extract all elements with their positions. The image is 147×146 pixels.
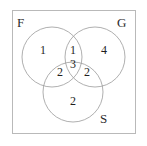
region-count-g-only: 4: [101, 44, 107, 56]
set-label-g: G: [117, 16, 126, 29]
set-label-s: S: [100, 112, 107, 125]
set-label-f: F: [17, 16, 24, 29]
region-count-s-only: 2: [70, 95, 76, 107]
region-count-f-and-s-only: 2: [57, 66, 63, 78]
region-count-g-and-s-only: 2: [84, 66, 90, 78]
circle-set-s: [43, 62, 103, 122]
region-count-f-and-g-only: 1: [70, 44, 76, 56]
region-count-f-and-g-and-s: 3: [70, 58, 76, 70]
region-count-f-only: 1: [40, 44, 46, 56]
venn-diagram-figure: F G S 1 4 2 1 2 2 3: [0, 0, 147, 146]
